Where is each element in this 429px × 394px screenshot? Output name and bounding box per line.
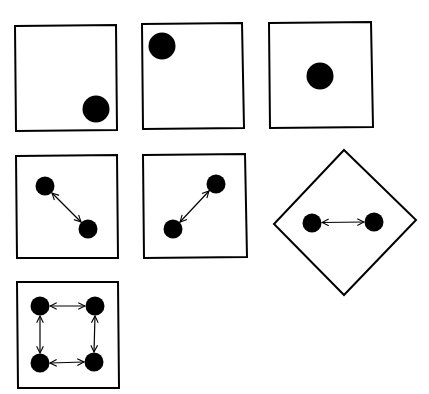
square-frame [17, 282, 119, 388]
double-arrow [52, 193, 81, 222]
dot [149, 33, 176, 60]
panel-6 [274, 150, 416, 295]
dot [207, 175, 226, 194]
dot [79, 220, 98, 239]
panel-1 [15, 25, 117, 131]
dot [83, 96, 110, 123]
double-arrow [322, 222, 364, 223]
panel-4 [16, 155, 118, 258]
dot [31, 354, 50, 373]
square-frame [16, 155, 118, 258]
dot [164, 220, 183, 239]
panel-3 [269, 22, 373, 128]
double-arrow [180, 191, 209, 222]
panel-7 [17, 282, 119, 388]
dot [31, 297, 50, 316]
double-arrow-right [94, 316, 95, 352]
panel-5 [143, 154, 247, 258]
dot [307, 63, 334, 90]
panel-2 [142, 23, 244, 129]
dot [36, 177, 55, 196]
diagram-canvas [0, 0, 429, 394]
double-arrow-bottom [50, 362, 84, 363]
dot [303, 214, 322, 233]
dot [365, 213, 384, 232]
dot [85, 353, 104, 372]
dot [86, 297, 105, 316]
